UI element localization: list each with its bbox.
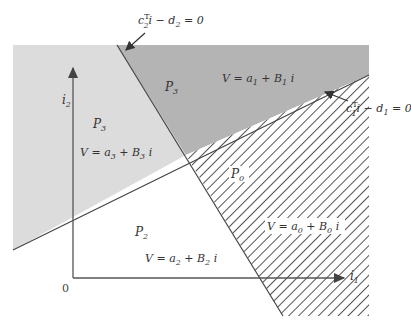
partition-diagram: i2 i1 0 cT2i − d2 = 0 cT1i − d1 = 0 P3 V… [0, 0, 411, 330]
boundary-eq-2: cT2i − d2 = 0 [138, 12, 204, 30]
boundary-eq-1: cT1i − d1 = 0 [346, 100, 411, 118]
region-bottom-equation: V = a2 + B2 i [145, 252, 217, 267]
region-bottom-name: P2 [134, 225, 148, 241]
origin-label: 0 [62, 282, 69, 295]
